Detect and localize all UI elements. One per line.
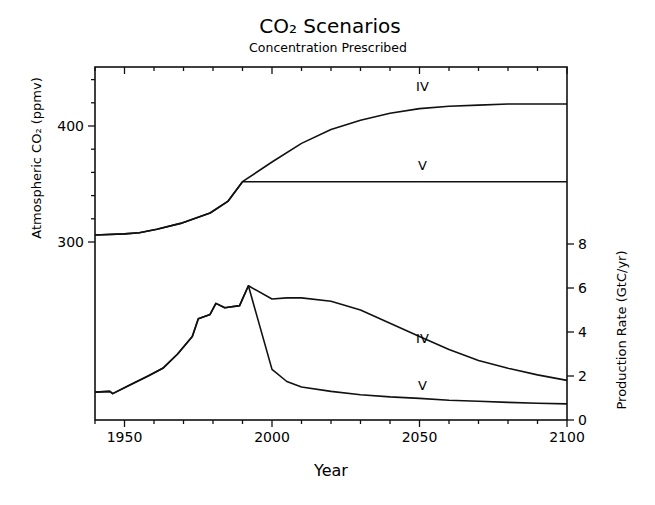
right-tick-label: 2: [578, 368, 587, 384]
chart-title: CO₂ Scenarios: [259, 14, 400, 38]
co2-scenarios-chart: CO₂ Scenarios Concentration Prescribed 1…: [0, 0, 655, 505]
curve-label: IV: [416, 331, 429, 346]
axis-ticks: 195020002050210030040002468: [57, 67, 587, 445]
curve-left-iv: [95, 104, 567, 235]
right-tick-label: 8: [578, 236, 587, 252]
curve-right-iv: [95, 286, 567, 394]
right-tick-label: 0: [578, 412, 587, 428]
x-tick-label: 1950: [107, 429, 143, 445]
curve-left-v: [95, 182, 567, 235]
curve-label: IV: [416, 79, 429, 94]
x-tick-label: 2050: [402, 429, 438, 445]
left-tick-label: 300: [57, 234, 84, 250]
x-tick-label: 2100: [549, 429, 585, 445]
x-tick-label: 2000: [254, 429, 290, 445]
left-y-axis-label: Atmospheric CO₂ (ppmv): [29, 77, 44, 239]
curve-label: V: [418, 158, 427, 173]
right-y-axis-label: Production Rate (GtC/yr): [614, 250, 629, 409]
curve-label: V: [418, 378, 427, 393]
curve-labels: IVVIVV: [416, 79, 429, 393]
left-tick-label: 400: [57, 118, 84, 134]
data-curves: [95, 104, 567, 404]
plot-frame: [95, 67, 567, 420]
curve-right-v: [95, 286, 567, 404]
x-axis-label: Year: [313, 461, 348, 480]
right-tick-label: 6: [578, 280, 587, 296]
right-tick-label: 4: [578, 324, 587, 340]
chart-subtitle: Concentration Prescribed: [249, 40, 407, 55]
